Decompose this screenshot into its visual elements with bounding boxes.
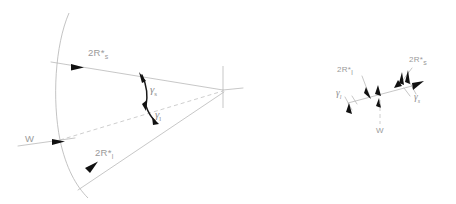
inset-gamma-l-label: γl: [336, 88, 342, 100]
gamma-l-label: γl: [155, 108, 161, 123]
lower-ray-label: 2R*l: [95, 147, 114, 160]
middle-dashed-ray: [60, 91, 223, 140]
inset-right-vector-label: 2R*s: [409, 55, 427, 66]
weight-ray-label: W: [25, 133, 34, 144]
upper-ray-label: 2R*s: [88, 47, 109, 60]
radius-arc: [56, 13, 88, 198]
inset-weight-label: W: [376, 126, 384, 135]
inset-gamma-l-mark: [352, 96, 357, 104]
inset-arrow-up-left: [375, 85, 381, 96]
inset-gamma-s-mark: [404, 88, 410, 96]
figure-root: 2R*s 2R*l W γs γl: [0, 0, 456, 204]
inset-vector-diagram: 2R*l 2R*s W γl γs: [336, 55, 427, 135]
inset-left-leader-arrowhead: [364, 87, 371, 99]
lower-ray-line: [78, 92, 224, 190]
inset-arrow-up-mid: [399, 72, 404, 85]
inset-gamma-s-label: γs: [414, 92, 421, 104]
inset-left-vector-label: 2R*l: [337, 65, 353, 76]
diagram-canvas: 2R*s 2R*l W γs γl: [0, 0, 456, 204]
gamma-s-label: γs: [150, 83, 157, 98]
main-wedge-diagram: 2R*s 2R*l W γs γl: [18, 13, 243, 198]
upper-ray-arrowhead: [71, 64, 84, 71]
inset-arrow-right: [412, 81, 424, 90]
upper-ray-extension: [223, 88, 243, 90]
lower-ray-arrowhead: [85, 162, 98, 174]
